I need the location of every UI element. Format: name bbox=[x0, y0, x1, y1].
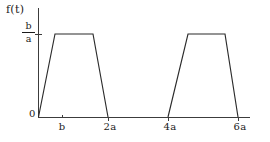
x-tick-label-2a: 2a bbox=[104, 122, 117, 132]
pulse-1-trace bbox=[39, 34, 109, 117]
fraction-denominator: a bbox=[22, 34, 35, 44]
x-tick-label-4a: 4a bbox=[164, 122, 177, 132]
pulse-2-trace bbox=[168, 34, 238, 117]
y-tick-label-b-over-a: b a bbox=[22, 21, 35, 44]
origin-label: 0 bbox=[29, 109, 36, 119]
x-tick-label-b: b bbox=[59, 122, 66, 132]
plot-canvas bbox=[0, 0, 270, 142]
fraction-numerator: b bbox=[22, 21, 35, 31]
y-axis-label: f(t) bbox=[6, 4, 24, 15]
waveform-figure: f(t) 0 b a b 2a 4a 6a bbox=[0, 0, 270, 142]
x-tick-label-6a: 6a bbox=[234, 122, 247, 132]
